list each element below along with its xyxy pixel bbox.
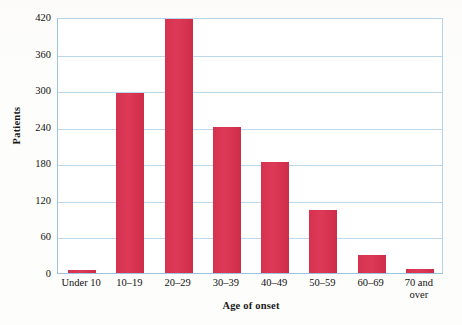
bar bbox=[116, 93, 144, 273]
x-axis-tick-label: 30–39 bbox=[202, 277, 250, 289]
x-axis-tick-label: 70 and over bbox=[395, 277, 443, 300]
bar-chart: Patients 060120180240300360420 Under 101… bbox=[0, 0, 462, 325]
y-axis-tick-label: 180 bbox=[5, 159, 51, 169]
x-axis-tick-label: 40–49 bbox=[250, 277, 298, 289]
x-axis-tick-label: 60–69 bbox=[347, 277, 395, 289]
y-axis-tick-labels: 060120180240300360420 bbox=[0, 18, 51, 274]
x-axis-title: Age of onset bbox=[0, 300, 462, 311]
y-axis-tick-label: 300 bbox=[5, 86, 51, 96]
bar bbox=[309, 210, 337, 273]
bars-layer bbox=[58, 19, 442, 273]
plot-area bbox=[57, 18, 443, 274]
bar bbox=[213, 127, 241, 273]
bar bbox=[261, 162, 289, 273]
y-axis-tick-label: 240 bbox=[5, 123, 51, 133]
bar bbox=[406, 269, 434, 273]
x-axis-tick-label: 20–29 bbox=[154, 277, 202, 289]
y-axis-tick-label: 0 bbox=[5, 269, 51, 279]
y-axis-tick-label: 60 bbox=[5, 232, 51, 242]
bar bbox=[68, 270, 96, 273]
x-axis-tick-label: Under 10 bbox=[57, 277, 105, 289]
y-axis-tick-label: 360 bbox=[5, 50, 51, 60]
y-axis-tick-label: 420 bbox=[5, 13, 51, 23]
x-axis-tick-label: 10–19 bbox=[105, 277, 153, 289]
bar bbox=[358, 255, 386, 273]
bar bbox=[165, 19, 193, 273]
y-axis-tick-label: 120 bbox=[5, 196, 51, 206]
x-axis-tick-label: 50–59 bbox=[298, 277, 346, 289]
